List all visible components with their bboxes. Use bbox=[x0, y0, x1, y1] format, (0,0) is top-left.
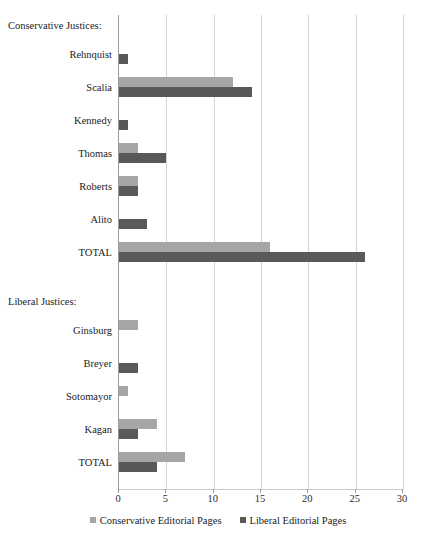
bar-conservative bbox=[119, 143, 138, 153]
category-label: Kagan bbox=[0, 424, 112, 435]
bar-liberal bbox=[119, 429, 138, 439]
category-label: TOTAL bbox=[0, 247, 112, 258]
x-axis-tick-label: 30 bbox=[397, 493, 408, 504]
bar-liberal bbox=[119, 363, 138, 373]
bar-liberal bbox=[119, 87, 252, 97]
bar-liberal bbox=[119, 54, 128, 64]
category-label: Alito bbox=[0, 214, 112, 225]
bar-liberal bbox=[119, 252, 365, 262]
bar-liberal bbox=[119, 120, 128, 130]
x-axis-tick-label: 0 bbox=[115, 493, 120, 504]
legend-swatch-icon bbox=[240, 517, 246, 523]
bar-conservative bbox=[119, 176, 138, 186]
x-axis-tick-label: 20 bbox=[302, 493, 313, 504]
x-axis-tick-label: 10 bbox=[207, 493, 218, 504]
category-label: Kennedy bbox=[0, 115, 112, 126]
group-heading: Liberal Justices: bbox=[8, 296, 208, 307]
category-label: Roberts bbox=[0, 181, 112, 192]
x-axis-tick-label: 15 bbox=[255, 493, 266, 504]
category-label: Scalia bbox=[0, 82, 112, 93]
gridline bbox=[403, 15, 404, 489]
bar-liberal bbox=[119, 462, 157, 472]
x-axis-tick-label: 25 bbox=[349, 493, 360, 504]
category-label: Thomas bbox=[0, 148, 112, 159]
category-label: Rehnquist bbox=[0, 49, 112, 60]
chart-legend: Conservative Editorial PagesLiberal Edit… bbox=[0, 514, 436, 526]
x-axis-tick-label: 5 bbox=[163, 493, 168, 504]
bar-conservative bbox=[119, 386, 128, 396]
bar-conservative bbox=[119, 320, 138, 330]
bar-conservative bbox=[119, 242, 270, 252]
bar-liberal bbox=[119, 153, 166, 163]
category-label: TOTAL bbox=[0, 457, 112, 468]
legend-item[interactable]: Liberal Editorial Pages bbox=[240, 514, 347, 526]
bar-conservative bbox=[119, 452, 185, 462]
category-label: Sotomayor bbox=[0, 391, 112, 402]
legend-label: Conservative Editorial Pages bbox=[100, 515, 222, 526]
legend-label: Liberal Editorial Pages bbox=[250, 515, 347, 526]
category-label: Breyer bbox=[0, 358, 112, 369]
bar-liberal bbox=[119, 186, 138, 196]
group-heading: Conservative Justices: bbox=[8, 20, 208, 31]
bar-chart: 051015202530 Conservative Justices:Rehnq… bbox=[0, 0, 436, 549]
bar-conservative bbox=[119, 77, 233, 87]
legend-item[interactable]: Conservative Editorial Pages bbox=[90, 514, 222, 526]
bar-liberal bbox=[119, 219, 147, 229]
category-label: Ginsburg bbox=[0, 325, 112, 336]
bar-conservative bbox=[119, 419, 157, 429]
legend-swatch-icon bbox=[90, 517, 96, 523]
